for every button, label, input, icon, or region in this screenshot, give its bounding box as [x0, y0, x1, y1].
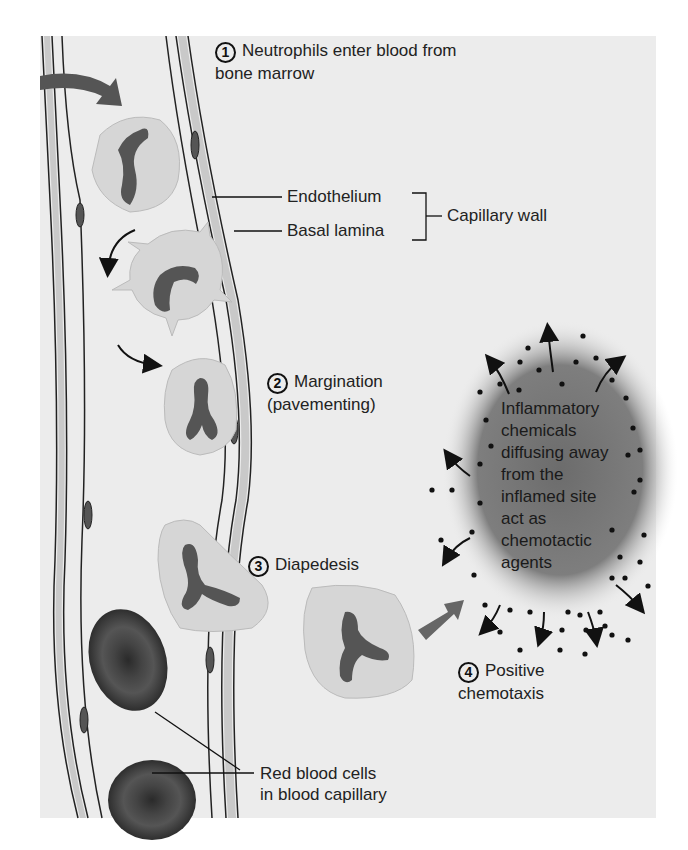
step-2-badge: 2	[267, 373, 288, 394]
step-4-label: 4Positive chemotaxis	[458, 660, 545, 704]
rbc-label-line1: Red blood cells	[260, 764, 376, 783]
step-1-badge: 1	[215, 42, 236, 63]
step-4-text-line1: Positive	[485, 661, 545, 680]
red-blood-cell	[76, 599, 180, 721]
inflamed-text-line: from the	[501, 464, 608, 486]
step-3-text: Diapedesis	[275, 555, 359, 574]
red-blood-cell	[108, 760, 196, 840]
inflamed-text-line: Inflammatory	[501, 398, 608, 420]
step-3-label: 3Diapedesis	[248, 554, 359, 577]
inflamed-text-line: agents	[501, 552, 608, 574]
left-capillary-wall	[42, 36, 102, 818]
neutrophil-rolling	[112, 222, 232, 336]
step-1-text-line1: Neutrophils enter blood from	[242, 41, 457, 60]
inflamed-site-text: Inflammatory chemicals diffusing away fr…	[501, 398, 608, 574]
neutrophil-entering	[92, 117, 180, 212]
step-4-badge: 4	[458, 662, 479, 683]
inflamed-text-line: chemotactic	[501, 530, 608, 552]
step-2-label: 2Margination (pavementing)	[267, 371, 383, 415]
step-4-text-line2: chemotaxis	[458, 684, 544, 703]
step-2-text-line1: Margination	[294, 372, 383, 391]
rbc-label: Red blood cells in blood capillary	[260, 763, 387, 805]
step-2-text-line2: (pavementing)	[267, 395, 376, 414]
endothelium-label: Endothelium	[287, 186, 382, 207]
step-1-text-line2: bone marrow	[215, 64, 314, 83]
rbc-label-line2: in blood capillary	[260, 785, 387, 804]
rolling-arrow-icon	[118, 345, 155, 365]
neutrophil-migrating	[304, 585, 414, 698]
basal-lamina-label: Basal lamina	[287, 220, 384, 241]
capillary-wall-label: Capillary wall	[447, 205, 547, 226]
inflamed-text-line: diffusing away	[501, 442, 608, 464]
step-1-label: 1Neutrophils enter blood from bone marro…	[215, 40, 457, 84]
migration-arrow-icon	[418, 600, 464, 640]
step-3-badge: 3	[248, 556, 269, 577]
inflamed-text-line: inflamed site	[501, 486, 608, 508]
inflamed-text-line: act as	[501, 508, 608, 530]
neutrophil-marginating	[164, 359, 237, 455]
inflamed-text-line: chemicals	[501, 420, 608, 442]
